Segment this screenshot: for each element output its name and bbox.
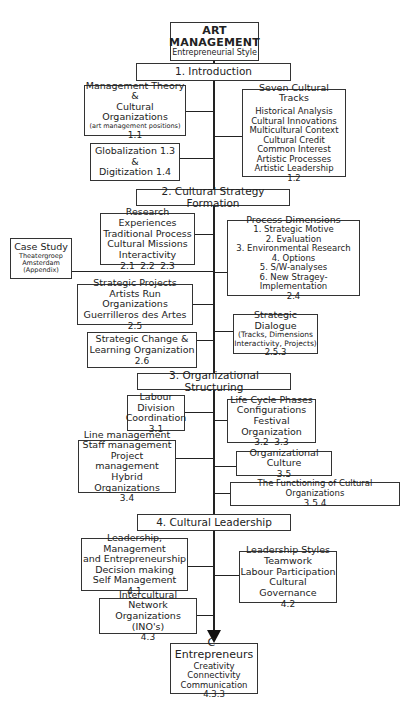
text: Cultural Governance	[240, 577, 336, 598]
box-c-entrepreneurs: C–Entrepreneurs Creativity Connectivity …	[170, 643, 258, 694]
section-number: 3.5.4	[304, 498, 327, 508]
text: Organizations (INO's)	[100, 611, 196, 632]
connector	[213, 331, 234, 332]
section-number: 2.4	[287, 292, 301, 302]
box-seven-cultural-tracks: Seven Cultural Tracks Historical Analysi…	[242, 89, 346, 177]
text: Festival Organization	[228, 416, 315, 437]
text: Intercultural Network	[100, 590, 196, 611]
title-box: ART MANAGEMENT Entrepreneurial Style	[170, 22, 259, 61]
text: Seven Cultural Tracks	[243, 83, 345, 104]
section-number: 4.3	[141, 632, 155, 642]
box-leadership-management: Leadership, Management and Entrepreneurs…	[81, 538, 188, 591]
box-line-management: Line management Staff management Project…	[78, 440, 176, 493]
text: (Appendix)	[23, 267, 59, 274]
connector	[196, 340, 213, 341]
section-organizational-structuring: 3. Organizational Structuring	[137, 373, 291, 390]
text: 6. New Stragey-Implementation	[228, 273, 359, 292]
box-management-theory: Management Theory & Cultural Organizatio…	[84, 85, 186, 136]
box-life-cycle-phases: Life Cycle Phases Configurations Festiva…	[227, 399, 316, 443]
section-number: 4.2	[281, 599, 295, 609]
connector	[72, 271, 213, 272]
section-number: 3.2 3.3	[254, 437, 288, 447]
text: Self Management	[93, 575, 176, 586]
section-label: 4. Cultural Leadership	[156, 517, 272, 529]
text: Artists Run Organizations	[78, 289, 192, 310]
connector	[213, 136, 243, 137]
text: Research Experiences	[101, 207, 194, 228]
text: Hybrid Organizations	[79, 472, 175, 493]
box-organizational-culture: Organizational Culture 3.5	[236, 451, 332, 476]
section-label: 1. Introduction	[175, 66, 252, 78]
box-strategic-dialogue: Strategic Dialogue (Tracks, Dimensions I…	[233, 314, 318, 354]
connector	[176, 458, 213, 459]
main-spine-line	[213, 56, 215, 636]
box-globalization: Globalization 1.3 & Digitization 1.4	[90, 143, 180, 181]
text: Organizational Culture	[237, 448, 331, 469]
section-number: 2.1 2.2 2.3	[120, 261, 174, 271]
section-number: 2.5.3	[265, 348, 287, 358]
section-introduction: 1. Introduction	[136, 63, 291, 81]
box-strategic-change: Strategic Change & Learning Organization…	[87, 332, 197, 368]
text: Interactivity	[119, 250, 176, 261]
text: Digitization 1.4	[99, 167, 171, 178]
text: Strategic Dialogue	[234, 310, 317, 331]
text: Coordination	[126, 413, 187, 424]
connector	[213, 575, 240, 576]
box-intercultural-network: Intercultural Network Organizations (INO…	[99, 598, 197, 634]
text: Leadership, Management	[82, 533, 187, 554]
connector	[194, 234, 213, 235]
section-number: 3.4	[120, 493, 134, 503]
box-research-experiences: Research Experiences Traditional Process…	[100, 213, 195, 265]
text: The Functioning of Cultural Organization…	[231, 479, 399, 498]
connector	[185, 111, 213, 112]
box-process-dimensions: Process Dimensions 1. Strategic Motive 2…	[227, 220, 360, 296]
connector	[187, 566, 213, 567]
connector	[213, 466, 237, 467]
section-number: 2.5	[128, 321, 142, 331]
section-label: 3. Organizational Structuring	[138, 370, 290, 394]
title-subtitle: Entrepreneurial Style	[172, 49, 257, 58]
connector	[213, 420, 228, 421]
connector	[192, 304, 213, 305]
section-number: 4.3.3	[203, 690, 225, 700]
text: Cultural Organizations	[85, 102, 185, 123]
text: Guerrilleros des Artes	[84, 310, 187, 321]
section-cultural-leadership: 4. Cultural Leadership	[137, 514, 291, 531]
text: C–Entrepreneurs	[171, 637, 257, 662]
text: (art management positions)	[89, 123, 180, 130]
box-labour-division: Labour Division Coordination 3.1	[127, 395, 185, 431]
connector	[196, 615, 213, 616]
section-number: 1.1	[128, 130, 142, 140]
text: Learning Organization	[90, 345, 195, 356]
box-functioning-cultural-orgs: The Functioning of Cultural Organization…	[230, 482, 400, 506]
text: Labour Division	[128, 392, 184, 413]
connector	[213, 493, 231, 494]
text: Project management	[79, 451, 175, 472]
connector	[184, 412, 213, 413]
box-case-study: Case Study Theatergroep Amsterdam (Appen…	[10, 238, 72, 279]
box-strategic-projects: Strategic Projects Artists Run Organizat…	[77, 284, 193, 325]
connector	[180, 158, 213, 159]
connector	[213, 272, 228, 273]
section-number: 2.6	[135, 356, 149, 366]
section-number: 1.2	[287, 174, 301, 184]
box-leadership-styles: Leadership Styles Teamwork Labour Partic…	[239, 551, 337, 603]
section-cultural-strategy: 2. Cultural Strategy Formation	[136, 189, 290, 206]
